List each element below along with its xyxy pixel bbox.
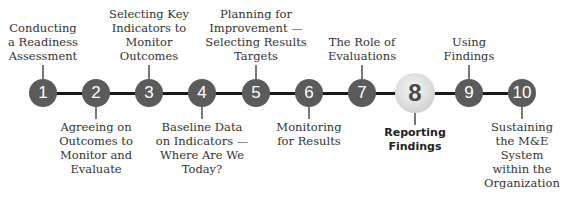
step-number: 8 [408,79,421,107]
step-number: 10 [513,83,532,103]
step-3-node: 3 [135,79,163,107]
step-6-label: Monitoringfor Results [254,120,364,148]
step-3-label: Selecting KeyIndicators toMonitorOutcome… [94,7,204,63]
step-5-node: 5 [242,79,270,107]
step-number: 7 [357,83,366,103]
step-number: 9 [464,83,473,103]
step-number: 5 [251,83,260,103]
step-number: 6 [304,83,313,103]
connector-line [468,65,470,79]
connector-line [201,107,203,119]
connector-line [95,107,97,119]
step-2-label: Agreeing onOutcomes toMonitor andEvaluat… [41,120,151,176]
step-2-node: 2 [82,79,110,107]
step-number: 3 [144,83,153,103]
connector-line [361,65,363,79]
step-number: 4 [197,83,206,103]
step-1-label: Conductinga ReadinessAssessment [0,21,98,63]
step-8-node: 8 [395,73,435,113]
step-8-label: ReportingFindings [360,126,470,154]
step-10-label: Sustainingthe M&ESystemwithin theOrganiz… [467,120,563,190]
step-4-node: 4 [188,79,216,107]
connector-line [255,65,257,79]
step-7-label: The Role ofEvaluations [307,35,417,63]
connector-line [42,65,44,79]
step-number: 2 [91,83,100,103]
step-number: 1 [38,83,47,103]
step-7-node: 7 [348,79,376,107]
step-10-node: 10 [508,79,536,107]
connector-line [148,65,150,79]
step-9-node: 9 [455,79,483,107]
step-4-label: Baseline Dataon Indicators —Where Are We… [147,120,257,176]
connector-line [521,107,523,119]
connector-line [308,107,310,119]
connector-line [414,113,416,125]
timeline-line [43,92,523,95]
step-1-node: 1 [29,79,57,107]
step-6-node: 6 [295,79,323,107]
step-9-label: UsingFindings [414,35,524,63]
step-5-label: Planning forImprovement —Selecting Resul… [201,7,311,63]
